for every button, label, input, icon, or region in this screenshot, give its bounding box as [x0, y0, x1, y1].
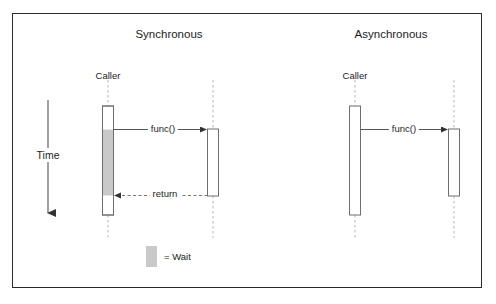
message-label-async-call: func(): [389, 123, 419, 134]
panel-title-asynchronous: Asynchronous: [355, 28, 428, 40]
panel-title-synchronous: Synchronous: [135, 28, 202, 40]
legend: = Wait: [146, 246, 191, 267]
sync-caller-wait-segment: [103, 130, 113, 196]
message-label-sync-return: return: [150, 188, 181, 199]
legend-wait-label: = Wait: [164, 251, 191, 262]
async-caller-activation-bar: [350, 106, 361, 215]
sync-callee-activation-bar: [208, 129, 219, 196]
actor-label-async-caller: Caller: [343, 70, 368, 81]
legend-wait-swatch: [146, 246, 157, 267]
panel-synchronous: [103, 80, 219, 238]
panel-asynchronous: [350, 80, 460, 238]
message-label-sync-call: func(): [148, 123, 178, 134]
time-axis-label: Time: [34, 148, 63, 162]
sequence-diagram-canvas: [0, 0, 496, 304]
async-callee-activation-bar: [449, 129, 460, 196]
actor-label-sync-caller: Caller: [96, 70, 121, 81]
